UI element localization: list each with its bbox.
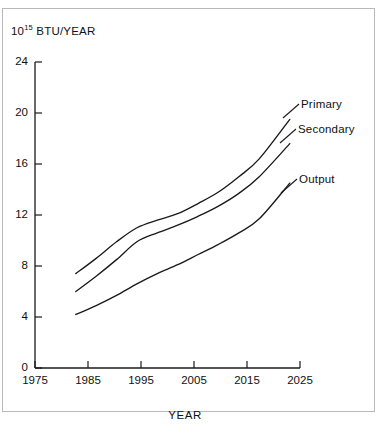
x-tick-label-1975: 1975 [12,375,58,387]
y-tick-label-0: 0 [2,362,28,374]
x-axis-ticks [35,361,300,368]
data-series-group [76,119,290,314]
y-tick-label-12: 12 [2,209,28,221]
y-tick-label-24: 24 [2,56,28,68]
leader-line-primary [283,104,299,118]
y-axis-ticks [35,62,42,368]
x-tick-label-1985: 1985 [65,375,111,387]
leader-line-output [281,179,297,193]
chart-figure: 1015 BTU/YEAR [0,0,388,436]
series-label-output: Output [299,173,335,185]
annotation-leader-lines [280,104,299,193]
plot-canvas [0,0,388,436]
series-label-secondary: Secondary [298,123,355,135]
y-tick-label-4: 4 [2,311,28,323]
series-line-secondary [76,144,290,292]
x-tick-label-2025: 2025 [277,375,323,387]
x-tick-label-2015: 2015 [224,375,270,387]
series-line-primary [76,119,290,273]
y-tick-label-16: 16 [2,158,28,170]
leader-line-secondary [280,129,296,143]
x-tick-label-2005: 2005 [171,375,217,387]
series-label-primary: Primary [301,98,342,110]
x-tick-label-1995: 1995 [118,375,164,387]
x-axis-title: YEAR [130,409,240,421]
y-tick-label-20: 20 [2,107,28,119]
y-tick-label-8: 8 [2,260,28,272]
